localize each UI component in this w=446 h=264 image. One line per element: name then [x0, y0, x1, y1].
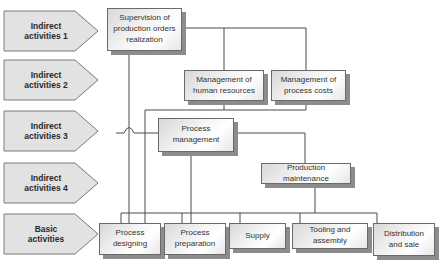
node-management-human-resources: Management ofhuman resources	[184, 70, 264, 101]
level-indirect-activities-1: Indirectactivities 1	[3, 10, 99, 52]
level-indirect-activities-3: Indirectactivities 3	[3, 110, 99, 152]
node-process-preparation: Processpreparation	[164, 223, 226, 255]
node-process-management: Processmanagement	[158, 118, 234, 152]
node-process-designing: Processdesigning	[99, 223, 161, 255]
level-basic-activities: Basicactivities	[3, 213, 99, 255]
level-label: Indirectactivities 1	[24, 21, 67, 41]
level-label: Basicactivities	[28, 224, 64, 244]
level-label: Indirectactivities 3	[24, 121, 67, 141]
node-production-maintenance: Production maintenance	[261, 163, 351, 184]
level-label: Indirectactivities 2	[24, 70, 67, 90]
node-tooling-and-assembly: Tooling and assembly	[292, 223, 368, 249]
level-indirect-activities-4: Indirectactivities 4	[3, 162, 99, 204]
node-management-process-costs: Management ofprocess costs	[271, 70, 346, 101]
org-diagram: Indirectactivities 1 Indirectactivities …	[0, 0, 446, 264]
node-distribution-and-sale: Distributionand sale	[373, 223, 435, 256]
node-supply: Supply	[229, 223, 286, 249]
level-label: Indirectactivities 4	[24, 173, 67, 193]
node-supervision-of-production-orders: Supervision ofproduction ordersrealizati…	[107, 8, 182, 51]
level-indirect-activities-2: Indirectactivities 2	[3, 59, 99, 101]
